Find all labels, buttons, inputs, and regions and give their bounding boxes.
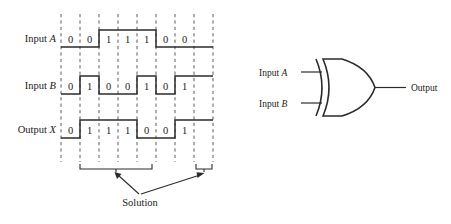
bit-cell: 0 — [163, 125, 168, 136]
row-input-a: Input A 0 0 1 1 1 0 0 — [25, 30, 213, 47]
row-output-x: Output X 0 1 1 1 0 0 1 — [18, 120, 213, 138]
solution-brace-left — [80, 164, 152, 172]
bit-cell: 1 — [87, 125, 92, 136]
xor-outer-arc — [316, 59, 322, 116]
bit-cell: 0 — [68, 125, 73, 136]
bit-cell: 1 — [125, 34, 130, 45]
solution-annotation: Solution — [80, 164, 212, 208]
bit-cell: 1 — [106, 34, 111, 45]
solution-arrow-right-line — [141, 175, 200, 194]
row-label-output-x: Output X — [18, 124, 57, 135]
solution-label: Solution — [122, 197, 158, 208]
waveform-output-x — [61, 120, 213, 138]
timing-diagram-figure: Input A 0 0 1 1 1 0 0 Input B 0 1 0 0 1 … — [0, 0, 451, 224]
gate-output-label: Output — [411, 83, 438, 93]
bit-cell: 0 — [68, 81, 73, 92]
bit-cell: 0 — [182, 34, 187, 45]
bit-cell: 1 — [144, 81, 149, 92]
bit-cell: 0 — [163, 81, 168, 92]
gate-input-b-label: Input B — [259, 99, 287, 109]
waveform-input-b — [61, 76, 213, 94]
figure-root: Input A 0 0 1 1 1 0 0 Input B 0 1 0 0 1 … — [0, 0, 451, 224]
bit-cell: 0 — [87, 34, 92, 45]
bit-cell: 0 — [125, 81, 130, 92]
bit-cell: 1 — [87, 81, 92, 92]
solution-brace-right — [196, 164, 212, 172]
row-input-b: Input B 0 1 0 0 1 0 1 — [25, 76, 213, 94]
bit-cell: 0 — [68, 34, 73, 45]
bit-cell: 1 — [182, 81, 187, 92]
bit-cell: 0 — [106, 81, 111, 92]
row-label-input-a: Input A — [25, 33, 57, 44]
xor-gate-schematic: Input A Input B Output — [259, 59, 438, 116]
bit-cell: 1 — [106, 125, 111, 136]
bit-cell: 0 — [163, 34, 168, 45]
row-label-input-b: Input B — [25, 80, 57, 91]
bit-cell: 1 — [182, 125, 187, 136]
xor-gate-body — [323, 59, 375, 116]
waveform-input-a — [61, 30, 213, 47]
bit-cell: 1 — [125, 125, 130, 136]
solution-arrow-right-head — [197, 172, 205, 178]
bit-cell: 1 — [144, 34, 149, 45]
bit-cell: 0 — [144, 125, 149, 136]
gate-input-a-label: Input A — [259, 68, 287, 78]
solution-arrow-left-line — [118, 175, 139, 194]
